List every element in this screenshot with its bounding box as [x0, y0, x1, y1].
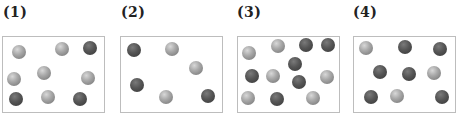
dark-particle-icon — [130, 78, 144, 92]
light-particle-icon — [306, 91, 320, 105]
dark-particle-icon — [201, 89, 215, 103]
dark-particle-icon — [83, 41, 97, 55]
light-particle-icon — [81, 71, 95, 85]
dark-particle-icon — [433, 42, 447, 56]
dark-particle-icon — [127, 43, 141, 57]
light-particle-icon — [242, 46, 256, 60]
light-particle-icon — [41, 90, 55, 104]
dark-particle-icon — [321, 38, 335, 52]
light-particle-icon — [37, 66, 51, 80]
dark-particle-icon — [270, 92, 284, 106]
light-particle-icon — [271, 39, 285, 53]
light-particle-icon — [359, 41, 373, 55]
light-particle-icon — [12, 45, 26, 59]
dark-particle-icon — [299, 38, 313, 52]
dark-particle-icon — [73, 92, 87, 106]
light-particle-icon — [320, 70, 334, 84]
dark-particle-icon — [292, 75, 306, 89]
light-particle-icon — [159, 90, 173, 104]
light-particle-icon — [241, 91, 255, 105]
light-particle-icon — [55, 42, 69, 56]
dark-particle-icon — [373, 65, 387, 79]
dark-particle-icon — [398, 40, 412, 54]
light-particle-icon — [390, 89, 404, 103]
light-particle-icon — [427, 66, 441, 80]
dark-particle-icon — [9, 92, 23, 106]
light-particle-icon — [7, 72, 21, 86]
light-particle-icon — [165, 42, 179, 56]
panel-label: (3) — [237, 4, 262, 20]
dark-particle-icon — [245, 69, 259, 83]
light-particle-icon — [266, 69, 280, 83]
panel-label: (2) — [121, 4, 146, 20]
dark-particle-icon — [435, 90, 449, 104]
panel-label: (1) — [3, 4, 28, 20]
panel-label: (4) — [353, 4, 378, 20]
light-particle-icon — [189, 61, 203, 75]
dark-particle-icon — [402, 67, 416, 81]
dark-particle-icon — [288, 57, 302, 71]
dark-particle-icon — [364, 90, 378, 104]
